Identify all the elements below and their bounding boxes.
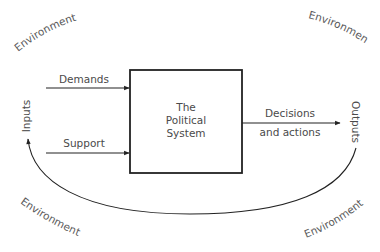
box-label-line-1: The: [175, 101, 196, 113]
box-label-line-2: Political: [166, 114, 206, 126]
environment-label-bottom-left: Environment: [19, 195, 82, 238]
environment-label-top-left: Environment: [12, 11, 78, 54]
decisions-label: Decisions: [265, 107, 315, 119]
box-label-line-3: System: [166, 127, 205, 139]
inputs-label: Inputs: [20, 100, 32, 133]
political-system-diagram: Environment Environment Environment Envi…: [0, 0, 380, 252]
demands-label: Demands: [59, 73, 109, 85]
environment-label-bottom-right: Environment: [302, 197, 365, 240]
and-actions-label: and actions: [260, 126, 321, 138]
support-label: Support: [63, 137, 105, 149]
outputs-label: Outputs: [350, 101, 362, 143]
